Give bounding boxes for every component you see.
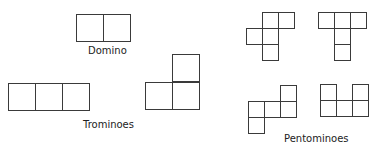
domino-label: Domino: [88, 45, 127, 56]
square-cell: [262, 28, 279, 45]
square-cell: [350, 12, 367, 29]
square-cell: [262, 44, 279, 61]
square-cell: [35, 83, 63, 111]
square-cell: [248, 101, 265, 118]
square-cell: [278, 12, 295, 29]
square-cell: [262, 12, 279, 29]
square-cell: [248, 117, 265, 134]
square-cell: [280, 101, 297, 118]
square-cell: [103, 14, 131, 42]
square-cell: [280, 85, 297, 102]
square-cell: [76, 14, 104, 42]
square-cell: [318, 12, 335, 29]
square-cell: [172, 82, 200, 110]
square-cell: [334, 12, 351, 29]
square-cell: [334, 28, 351, 45]
square-cell: [320, 84, 337, 101]
square-cell: [246, 28, 263, 45]
square-cell: [334, 44, 351, 61]
trominoes-label: Trominoes: [83, 119, 134, 130]
square-cell: [62, 83, 90, 111]
square-cell: [320, 100, 337, 117]
square-cell: [172, 54, 200, 82]
square-cell: [352, 84, 369, 101]
square-cell: [352, 100, 369, 117]
pentominoes-label: Pentominoes: [284, 133, 349, 144]
square-cell: [145, 82, 173, 110]
square-cell: [8, 83, 36, 111]
square-cell: [336, 100, 353, 117]
square-cell: [264, 101, 281, 118]
